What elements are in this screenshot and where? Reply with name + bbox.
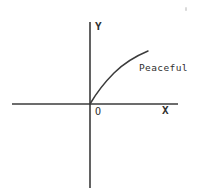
origin-label: O — [95, 107, 101, 117]
peaceful-curve — [90, 51, 148, 104]
curve-annotation-label: Peaceful — [139, 63, 188, 73]
coordinate-plane-figure: Y X O Peaceful — [0, 0, 198, 196]
scan-artifact-speck — [185, 7, 187, 11]
x-axis-label: X — [162, 105, 169, 116]
y-axis-label: Y — [95, 21, 102, 32]
